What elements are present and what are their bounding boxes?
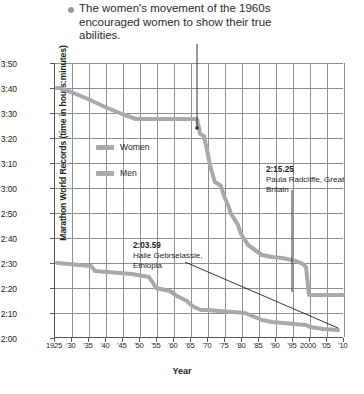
gridline-vertical (293, 63, 294, 337)
y-tick-label: 2:20 (0, 284, 17, 294)
gridline-horizontal (55, 288, 343, 289)
y-tick-label: 3:20 (0, 134, 17, 144)
y-tick-label: 3:40 (0, 84, 17, 94)
legend-item-women: Women (96, 142, 149, 152)
gridline-horizontal (55, 63, 343, 64)
gridline-vertical (225, 63, 226, 337)
callout-text: The women's movement of the 1960s encour… (79, 2, 308, 43)
x-tick-mark (309, 338, 310, 342)
annotation-gebrselassie: 2:03.59 Haile Gebrselassie, Ethiopia (133, 241, 233, 270)
gridline-vertical (191, 63, 192, 337)
gridline-horizontal (55, 138, 343, 139)
y-tick-label: 2:30 (0, 259, 17, 269)
legend: Women Men (96, 142, 149, 194)
legend-label: Men (120, 168, 137, 178)
legend-item-men: Men (96, 168, 149, 178)
x-tick-mark (207, 338, 208, 342)
gridline-vertical (259, 63, 260, 337)
gridline-vertical (106, 63, 107, 337)
x-tick-mark (139, 338, 140, 342)
y-tick-label: 2:40 (0, 234, 17, 244)
x-tick-mark (156, 338, 157, 342)
gridline-vertical (140, 63, 141, 337)
plot-area (54, 63, 343, 338)
gridline-vertical (72, 63, 73, 337)
x-tick-mark (54, 338, 55, 342)
marathon-world-records-chart: The women's movement of the 1960s encour… (0, 0, 364, 394)
x-tick-mark (71, 338, 72, 342)
x-tick-mark (173, 338, 174, 342)
x-tick-mark (122, 338, 123, 342)
gridline-horizontal (55, 213, 343, 214)
gridline-vertical (327, 63, 328, 337)
x-tick-mark (292, 338, 293, 342)
gridline-horizontal (55, 113, 343, 114)
x-tick-mark (326, 338, 327, 342)
x-tick-mark (343, 338, 344, 342)
x-tick-mark (275, 338, 276, 342)
gridline-vertical (157, 63, 158, 337)
y-tick-label: 2:10 (0, 309, 17, 319)
annotation-body: Haile Gebrselassie, Ethiopia (133, 251, 233, 270)
annotation-headline: 2:15.25 (266, 165, 346, 175)
gridline-vertical (89, 63, 90, 337)
legend-label: Women (120, 142, 149, 152)
bullet-dot-icon (68, 7, 74, 13)
y-axis-title: Marathon World Records (time in hours:mi… (58, 28, 68, 258)
y-tick-label: 2:00 (0, 334, 17, 344)
y-tick-label: 3:30 (0, 109, 17, 119)
y-tick-label: 3:10 (0, 159, 17, 169)
gridline-horizontal (55, 313, 343, 314)
x-tick-mark (258, 338, 259, 342)
annotation-radcliffe: 2:15.25 Paula Radcliffe, Great Britain (266, 165, 346, 194)
gridline-vertical (276, 63, 277, 337)
x-tick-label: '10 (330, 341, 356, 350)
gridline-vertical (174, 63, 175, 337)
x-tick-mark (105, 338, 106, 342)
gridline-vertical (310, 63, 311, 337)
gridline-vertical (242, 63, 243, 337)
gridline-vertical (344, 63, 345, 337)
annotation-headline: 2:03.59 (133, 241, 233, 251)
gridline-horizontal (55, 88, 343, 89)
x-tick-mark (190, 338, 191, 342)
y-tick-label: 2:50 (0, 209, 17, 219)
gridline-horizontal (55, 238, 343, 239)
x-axis-title: Year (0, 366, 364, 376)
callout-womens-movement: The women's movement of the 1960s encour… (68, 2, 308, 43)
y-tick-label: 3:00 (0, 184, 17, 194)
x-tick-mark (224, 338, 225, 342)
y-tick-label: 3:50 (0, 59, 17, 69)
x-tick-mark (241, 338, 242, 342)
annotation-body: Paula Radcliffe, Great Britain (266, 175, 346, 194)
legend-swatch-icon (96, 171, 114, 176)
legend-swatch-icon (96, 145, 114, 150)
gridline-vertical (208, 63, 209, 337)
gridline-vertical (123, 63, 124, 337)
x-tick-mark (88, 338, 89, 342)
